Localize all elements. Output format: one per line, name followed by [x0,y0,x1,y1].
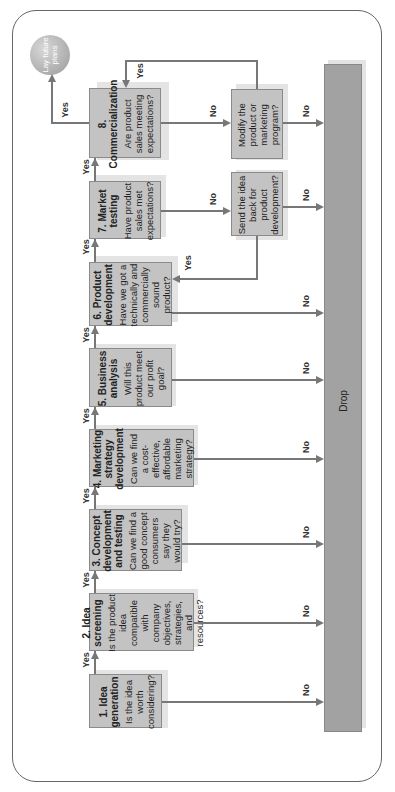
stage-5-business-analysis: 5. Business analysis Will this product m… [89,348,172,407]
stage-question: Is the product idea compatible with comp… [106,594,205,652]
drop-label: Drop [338,390,349,412]
stage-3-concept-development: 3. Concept development and testing Can w… [89,509,182,571]
no-label: No [301,295,311,307]
drop-label-wrap: Drop [325,341,361,461]
modify-program-box: Modify the product or marketing program? [231,89,283,159]
stage-title: 1. Idea generation [98,675,120,729]
stage-title: 7. Market testing [97,182,119,240]
stage-title: 6. Product development [92,263,114,327]
yes-label: Yes [81,408,91,424]
no-label: No [301,189,311,201]
lay-future-plans-node: Lay future plans [30,35,70,75]
no-label: No [301,362,311,374]
stage-question: Is the idea worth considering? [123,675,156,729]
yes-label: Yes [81,652,91,668]
stage-2-idea-screening: 2. Idea screening Is the product idea co… [89,593,194,651]
yes-label: Yes [81,488,91,504]
send-back-box: Send the idea back for product developme… [231,172,283,236]
yes-label: Yes [135,63,145,79]
yes-label: Yes [81,239,91,255]
no-label: No [208,105,218,117]
stage-question: Are product sales meeting expectations? [122,89,155,159]
drop-bar: Drop [324,64,362,732]
no-label: No [301,605,311,617]
stage-question: Can we find a cost-effective, affordable… [128,430,194,488]
yes-label: Yes [183,255,193,271]
stage-title: 8. Commercialization [97,80,119,169]
stage-title: 2. Idea screening [81,594,103,652]
no-label: No [301,684,311,696]
send-back-question: Send the idea back for product developme… [236,173,280,237]
yes-label: Yes [81,327,91,343]
stage-4-marketing-strategy: 4. Marketing strategy development Can we… [89,429,194,487]
no-label: No [301,441,311,453]
yes-label: Yes [60,102,70,118]
no-label: No [301,105,311,117]
modify-question: Modify the product or marketing program? [236,90,280,160]
stage-7-market-testing: 7. Market testing Have product sales met… [89,181,161,239]
stage-question: Have we got a technically and commercial… [117,263,172,327]
stage-1-idea-generation: 1. Idea generation Is the idea worth con… [89,674,162,728]
no-label: No [208,193,218,205]
stage-8-commercialization: 8. Commercialization Are product sales m… [89,88,161,158]
terminal-label: Lay future plans [41,35,59,75]
stage-question: Have product sales met expectations? [122,182,155,241]
no-label: No [301,526,311,538]
stage-title: 4. Marketing strategy development [92,428,125,490]
stage-title: 3. Concept development and testing [91,510,124,572]
yes-label: Yes [81,572,91,588]
stage-question: Will this product meet our profit goal? [122,349,166,408]
stage-title: 5. Business analysis [97,349,119,408]
stage-6-product-development: 6. Product development Have we got a tec… [89,262,172,326]
yes-label: Yes [81,159,91,175]
stage-question: Can we find a good concept consumers say… [127,510,182,572]
